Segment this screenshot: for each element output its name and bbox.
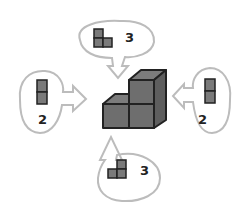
- left-view-bubble: [20, 71, 86, 133]
- bottom-view-bubble: [98, 137, 160, 201]
- right-view-shape: [205, 79, 215, 103]
- left-view-count: 2: [38, 112, 47, 127]
- top-view-count: 3: [125, 30, 134, 45]
- bottom-view-shape: [108, 160, 126, 178]
- left-view-shape: [37, 80, 47, 104]
- cube-structure: [103, 70, 166, 128]
- top-view-shape: [94, 29, 112, 47]
- diagram-canvas: [0, 0, 247, 213]
- right-view-count: 2: [198, 112, 207, 127]
- bottom-view-count: 3: [140, 163, 149, 178]
